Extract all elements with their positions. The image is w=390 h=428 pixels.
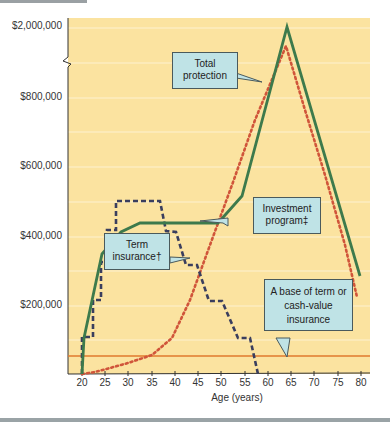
callout-base-line1: A base of term or [265, 285, 352, 299]
callout-base-insurance: A base of term or cash-value insurance [264, 279, 353, 331]
x-label-30: 30 [118, 377, 138, 388]
x-label-60: 60 [258, 377, 278, 388]
callout-total-line2: protection [173, 70, 237, 82]
x-label-25: 25 [95, 377, 115, 388]
callout-investment-program: Investment program‡ [253, 197, 321, 234]
callout-total-line1: Total [173, 58, 237, 70]
x-label-70: 70 [304, 377, 324, 388]
x-label-40: 40 [165, 377, 185, 388]
y-label-200000: $200,000 [20, 299, 62, 310]
x-label-75: 75 [328, 377, 348, 388]
x-axis-title: Age (years) [197, 392, 277, 403]
y-label-600000: $600,000 [20, 160, 62, 171]
callout-term-line2: insurance† [105, 251, 169, 263]
y-label-800000: $800,000 [20, 91, 62, 102]
x-label-35: 35 [142, 377, 162, 388]
callout-base-line3: insurance [265, 313, 352, 327]
callout-total-protection: Total protection [172, 52, 238, 89]
x-label-65: 65 [281, 377, 301, 388]
x-label-80: 80 [351, 377, 371, 388]
callout-invest-line1: Investment [254, 203, 320, 215]
callout-invest-line2: program‡ [254, 215, 320, 227]
callout-term-line1: Term [105, 239, 169, 251]
x-label-50: 50 [211, 377, 231, 388]
x-label-45: 45 [188, 377, 208, 388]
y-label-400000: $400,000 [20, 230, 62, 241]
y-label-2000000: $2,000,000 [12, 20, 62, 31]
x-label-55: 55 [235, 377, 255, 388]
bottom-decorative-bar [0, 418, 390, 422]
callout-term-insurance: Term insurance† [104, 233, 170, 270]
x-label-20: 20 [72, 377, 92, 388]
callout-base-line2: cash-value [265, 299, 352, 313]
